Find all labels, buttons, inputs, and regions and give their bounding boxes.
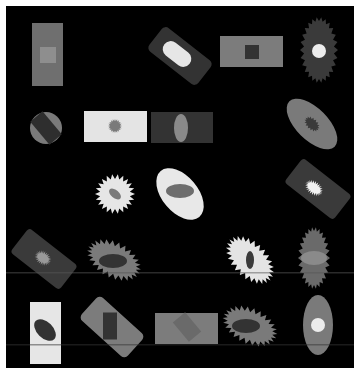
shape-group-20 bbox=[303, 295, 333, 355]
inner-ellipse-shape bbox=[99, 254, 127, 268]
shape-group-6 bbox=[84, 111, 147, 142]
shapes-image bbox=[0, 0, 362, 368]
shape-group-1 bbox=[32, 23, 63, 86]
shape-group-18 bbox=[155, 312, 218, 344]
inner-rect-shape bbox=[40, 47, 56, 63]
scanline-artifact bbox=[6, 272, 354, 274]
shape-group-16 bbox=[30, 302, 61, 364]
inner-ellipse-shape bbox=[166, 184, 194, 198]
inner-circle-shape bbox=[312, 44, 326, 58]
inner-ellipse-shape bbox=[232, 319, 260, 333]
inner-circle-shape bbox=[311, 318, 325, 332]
shapes-svg bbox=[0, 0, 362, 368]
scanline-artifact bbox=[6, 344, 354, 346]
inner-ellipse-shape bbox=[174, 114, 188, 142]
inner-rect-shape bbox=[103, 313, 117, 340]
shape-group-3 bbox=[220, 36, 283, 67]
shape-group-7 bbox=[151, 112, 213, 143]
inner-ellipse-shape bbox=[246, 251, 254, 269]
inner-ellipse-shape bbox=[301, 251, 327, 265]
inner-rect-shape bbox=[245, 45, 259, 59]
